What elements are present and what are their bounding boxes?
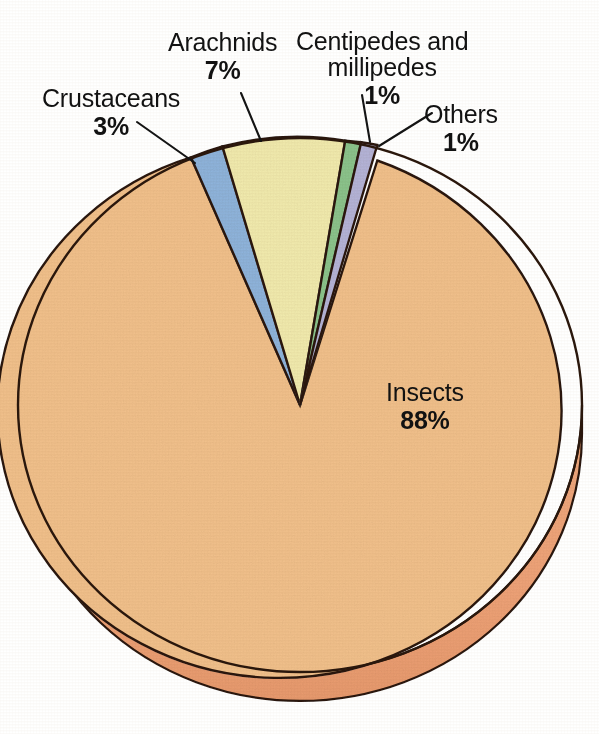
label-crustaceans-percent: 3% bbox=[42, 112, 180, 140]
pie-chart-figure: Crustaceans 3% Arachnids 7% Centipedes a… bbox=[0, 0, 599, 734]
label-crustaceans: Crustaceans 3% bbox=[42, 84, 180, 140]
label-centipedes-line1: Centipedes and bbox=[296, 28, 468, 54]
label-centipedes-millipedes: Centipedes and millipedes 1% bbox=[296, 28, 468, 109]
label-crustaceans-name: Crustaceans bbox=[42, 84, 180, 112]
label-others-percent: 1% bbox=[424, 128, 498, 156]
label-arachnids-name: Arachnids bbox=[168, 28, 277, 56]
label-arachnids: Arachnids 7% bbox=[168, 28, 277, 84]
label-others: Others 1% bbox=[424, 100, 498, 156]
label-centipedes-line2: millipedes bbox=[296, 54, 468, 80]
label-arachnids-percent: 7% bbox=[168, 56, 277, 84]
label-insects: Insects 88% bbox=[386, 378, 464, 434]
label-others-name: Others bbox=[424, 100, 498, 128]
label-insects-name: Insects bbox=[386, 378, 464, 406]
pie-top-face bbox=[0, 137, 582, 678]
leader-line-arachnids bbox=[241, 93, 261, 141]
label-insects-percent: 88% bbox=[386, 406, 464, 434]
